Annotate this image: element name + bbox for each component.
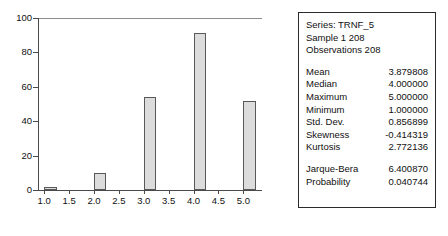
y-axis-tick bbox=[33, 18, 38, 19]
statistics-header-line: Sample 1 208 bbox=[306, 32, 428, 45]
bar-series bbox=[38, 18, 262, 190]
statistics-rows: Mean3.879808Median4.000000Maximum5.00000… bbox=[306, 66, 428, 154]
y-axis-tick-label: 100 bbox=[0, 13, 32, 23]
y-axis-tick-label: 60 bbox=[0, 82, 32, 92]
statistic-label: Skewness bbox=[306, 129, 349, 142]
statistics-tests: Jarque-Bera6.400870Probability0.040744 bbox=[306, 163, 428, 188]
histogram-chart: 100806040200 1.01.52.02.53.03.54.04.55.0 bbox=[0, 0, 272, 236]
histogram-bar bbox=[44, 187, 56, 190]
histogram-bar bbox=[243, 101, 255, 190]
statistic-label: Minimum bbox=[306, 104, 345, 117]
statistic-label: Probability bbox=[306, 176, 350, 189]
x-axis-tick bbox=[44, 190, 45, 194]
histogram-figure: 100806040200 1.01.52.02.53.03.54.04.55.0… bbox=[0, 0, 448, 236]
statistic-label: Jarque-Bera bbox=[306, 163, 358, 176]
statistic-row: Skewness-0.414319 bbox=[306, 129, 428, 142]
statistic-row: Minimum1.000000 bbox=[306, 104, 428, 117]
statistic-value: 0.040744 bbox=[388, 176, 428, 189]
statistic-value: 3.879808 bbox=[388, 66, 428, 79]
statistic-row: Kurtosis2.772136 bbox=[306, 141, 428, 154]
y-axis-tick-label: 0 bbox=[0, 185, 32, 195]
x-axis-tick bbox=[169, 190, 170, 194]
statistic-value: 2.772136 bbox=[388, 141, 428, 154]
x-axis-tick bbox=[119, 190, 120, 194]
statistic-label: Std. Dev. bbox=[306, 116, 344, 129]
statistic-test-row: Probability0.040744 bbox=[306, 176, 428, 189]
statistics-header-line: Series: TRNF_5 bbox=[306, 19, 428, 32]
statistics-test-spacer bbox=[306, 154, 428, 163]
x-axis-tick bbox=[69, 190, 70, 194]
y-axis-tick bbox=[33, 190, 38, 191]
statistic-value: 6.400870 bbox=[388, 163, 428, 176]
statistic-test-row: Jarque-Bera6.400870 bbox=[306, 163, 428, 176]
statistic-label: Maximum bbox=[306, 91, 347, 104]
statistics-spacer bbox=[306, 57, 428, 66]
statistic-row: Std. Dev.0.856899 bbox=[306, 116, 428, 129]
x-axis-tick bbox=[94, 190, 95, 194]
histogram-bar bbox=[94, 173, 106, 190]
y-axis-tick bbox=[33, 121, 38, 122]
statistic-value: 0.856899 bbox=[388, 116, 428, 129]
statistic-value: -0.414319 bbox=[385, 129, 428, 142]
x-axis-tick bbox=[144, 190, 145, 194]
statistic-label: Median bbox=[306, 78, 337, 91]
statistics-header: Series: TRNF_5Sample 1 208Observations 2… bbox=[306, 19, 428, 57]
y-axis-tick-label: 40 bbox=[0, 116, 32, 126]
x-axis-tick bbox=[194, 190, 195, 194]
statistic-label: Mean bbox=[306, 66, 330, 79]
statistics-header-line: Observations 208 bbox=[306, 44, 428, 57]
statistic-value: 5.000000 bbox=[388, 91, 428, 104]
statistic-label: Kurtosis bbox=[306, 141, 340, 154]
y-axis-tick-label: 80 bbox=[0, 47, 32, 57]
statistic-row: Median4.000000 bbox=[306, 78, 428, 91]
statistic-value: 1.000000 bbox=[388, 104, 428, 117]
x-axis-tick-label: 5.0 bbox=[228, 196, 258, 206]
statistic-row: Mean3.879808 bbox=[306, 66, 428, 79]
y-axis-tick-label: 20 bbox=[0, 151, 32, 161]
histogram-bar bbox=[144, 97, 156, 190]
x-axis-line bbox=[38, 190, 262, 191]
statistic-value: 4.000000 bbox=[388, 78, 428, 91]
y-axis-tick bbox=[33, 52, 38, 53]
y-axis-tick bbox=[33, 87, 38, 88]
statistic-row: Maximum5.000000 bbox=[306, 91, 428, 104]
x-axis-tick bbox=[243, 190, 244, 194]
x-axis-tick bbox=[218, 190, 219, 194]
histogram-bar bbox=[194, 33, 206, 190]
statistics-panel: Series: TRNF_5Sample 1 208Observations 2… bbox=[298, 12, 436, 208]
y-axis-tick bbox=[33, 156, 38, 157]
